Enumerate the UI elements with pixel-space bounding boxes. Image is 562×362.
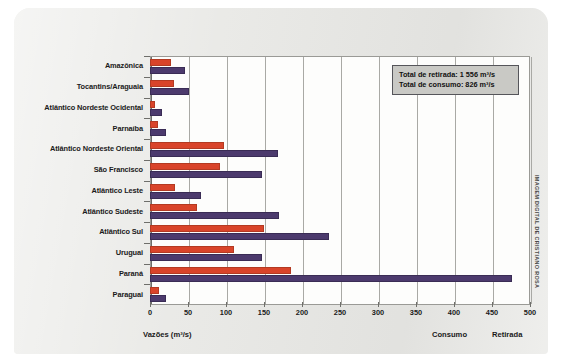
bar-row (150, 222, 530, 243)
category-label-6: Atlântico Leste (10, 186, 143, 195)
legend-label-consumo: Consumo (432, 330, 467, 339)
x-axis-tick-labels: 050100150200250300350400450500 (150, 308, 530, 322)
bar-consumo-11 (150, 287, 159, 294)
bar-retirada-8 (150, 233, 329, 240)
x-tick-label-250: 250 (334, 308, 346, 317)
x-tick-label-400: 400 (448, 308, 460, 317)
x-tick-label-450: 450 (486, 308, 498, 317)
bar-consumo-2 (150, 101, 155, 108)
category-labels: AmazônicaTocantins/AraguaiaAtlântico Nor… (10, 56, 143, 305)
category-label-9: Uruguai (10, 248, 143, 257)
bar-consumo-3 (150, 121, 158, 128)
bar-consumo-8 (150, 225, 264, 232)
bar-retirada-11 (150, 295, 166, 302)
bar-row (150, 243, 530, 264)
x-tick-mark-100 (226, 302, 227, 307)
x-tick-mark-50 (188, 302, 189, 307)
bar-retirada-9 (150, 254, 262, 261)
bar-row (150, 118, 530, 139)
bar-retirada-7 (150, 212, 279, 219)
x-axis-title: Vazões (m³/s) (143, 330, 192, 339)
x-tick-label-100: 100 (220, 308, 232, 317)
bar-row (150, 160, 530, 181)
bar-retirada-10 (150, 275, 512, 282)
x-tick-mark-300 (378, 302, 379, 307)
bar-retirada-1 (150, 88, 189, 95)
bar-retirada-0 (150, 67, 185, 74)
category-label-10: Paraná (10, 269, 143, 278)
x-tick-label-0: 0 (148, 308, 152, 317)
totals-annotation-box: Total de retirada: 1 556 m³/s Total de c… (392, 65, 519, 95)
category-label-11: Paraguai (10, 290, 143, 299)
x-tick-mark-250 (340, 302, 341, 307)
total-consumo-text: Total de consumo: 826 m³/s (399, 80, 513, 90)
bar-consumo-6 (150, 184, 175, 191)
image-credit-text: IMAGEM DIGITAL DE CRISTIANO ROSA (534, 175, 540, 295)
bar-row (150, 139, 530, 160)
bar-consumo-1 (150, 80, 174, 87)
category-label-1: Tocantins/Araguaia (10, 82, 143, 91)
x-tick-mark-0 (150, 302, 151, 307)
bar-row (150, 98, 530, 119)
x-tick-mark-500 (530, 302, 531, 307)
x-tick-label-300: 300 (372, 308, 384, 317)
x-tick-mark-400 (454, 302, 455, 307)
bar-row (150, 201, 530, 222)
category-label-7: Atlântico Sudeste (10, 207, 143, 216)
x-tick-label-150: 150 (258, 308, 270, 317)
bar-row (150, 264, 530, 285)
bar-consumo-0 (150, 59, 171, 66)
x-tick-mark-150 (264, 302, 265, 307)
gridline-500 (531, 57, 532, 304)
category-label-2: Atlântico Nordeste Ocidental (10, 103, 143, 112)
bar-row (150, 181, 530, 202)
category-label-4: Atlântico Nordeste Oriental (10, 144, 143, 153)
x-tick-label-500: 500 (524, 308, 536, 317)
category-label-0: Amazônica (10, 61, 143, 70)
legend-label-retirada: Retirada (492, 330, 522, 339)
x-tick-mark-200 (302, 302, 303, 307)
bar-consumo-7 (150, 204, 197, 211)
category-label-8: Atlântico Sul (10, 227, 143, 236)
category-label-3: Parnaíba (10, 124, 143, 133)
x-tick-mark-350 (416, 302, 417, 307)
x-tick-mark-450 (492, 302, 493, 307)
chart-figure: AmazônicaTocantins/AraguaiaAtlântico Nor… (0, 0, 562, 362)
x-tick-label-200: 200 (296, 308, 308, 317)
category-label-5: São Francisco (10, 165, 143, 174)
bar-consumo-9 (150, 246, 234, 253)
x-tick-label-350: 350 (410, 308, 422, 317)
total-retirada-text: Total de retirada: 1 556 m³/s (399, 70, 513, 80)
bar-retirada-4 (150, 150, 278, 157)
bar-retirada-3 (150, 129, 166, 136)
x-tick-label-50: 50 (184, 308, 192, 317)
bar-retirada-6 (150, 192, 201, 199)
bar-consumo-4 (150, 142, 224, 149)
bar-retirada-5 (150, 171, 262, 178)
bar-retirada-2 (150, 109, 162, 116)
bar-consumo-5 (150, 163, 220, 170)
bar-consumo-10 (150, 267, 291, 274)
